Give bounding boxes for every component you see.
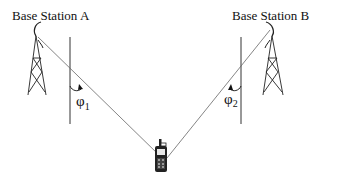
line-a-to-mobile [38, 37, 160, 156]
angle-arrow-phi2 [228, 84, 233, 90]
phi2-label: φ2 [224, 91, 238, 109]
mobile-phone-icon [155, 139, 167, 172]
angle-arrow-phi1 [78, 84, 83, 90]
antenna-b-signal [265, 40, 270, 48]
antenna-a-arc [34, 22, 41, 36]
phi1-label: φ1 [76, 93, 90, 112]
base-station-b-tower-icon [263, 22, 283, 95]
aoa-diagram: Base Station A φ1 Base Station B [0, 0, 338, 192]
line-b-to-mobile [167, 30, 270, 158]
base-station-b-label: Base Station B [232, 8, 310, 23]
base-station-a-tower-icon [28, 22, 46, 95]
base-station-a-label: Base Station A [12, 8, 90, 23]
